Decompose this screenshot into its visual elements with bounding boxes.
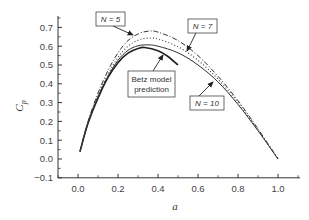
cp-vs-a-chart: −0.10.00.10.20.30.40.50.60.70.00.20.40.6… [0,0,309,220]
y-tick-label: 0.1 [40,135,53,146]
annotation-n-5: N = 5 [96,12,133,35]
annotation-label: N = 10 [195,99,219,108]
y-tick-label: 0.7 [40,22,53,33]
arrow-icon [199,82,213,96]
annotation-label-line2: prediction [134,85,169,94]
x-tick-label: 0.0 [71,183,84,194]
x-tick-label: 1.0 [271,183,284,194]
arrow-icon [153,55,163,71]
annotation-n-10: N = 10 [190,82,224,110]
x-tick-label: 0.4 [151,183,164,194]
x-tick-label: 0.2 [111,183,124,194]
annotation-n-7: N = 7 [187,19,217,51]
annotation-label: Betz model [131,75,171,84]
y-tick-label: 0.5 [40,59,53,70]
arrow-icon [187,33,196,51]
annotation-label: N = 5 [101,15,121,24]
series-group [80,31,278,159]
annotations: N = 5N = 7Betz modelpredictionN = 10 [96,12,224,110]
annotation-label: N = 7 [193,22,213,31]
y-axis-title: Cp [13,100,28,111]
series-n-10-line [80,45,278,159]
y-tick-label: 0.4 [40,78,53,89]
y-tick-label: 0.3 [40,97,53,108]
annotation-betz-model-prediction: Betz modelprediction [128,55,175,97]
x-axis-title: a [172,200,178,212]
x-tick-label: 0.6 [191,183,204,194]
series-betz-model-prediction-line [80,47,178,151]
series-n-5-line [80,31,278,159]
y-tick-label: 0.6 [40,41,53,52]
y-tick-label: −0.1 [34,172,53,183]
series-n-7-line [80,38,278,159]
x-tick-label: 0.8 [231,183,244,194]
y-tick-label: 0.2 [40,116,53,127]
arrow-icon [113,26,133,35]
y-tick-label: 0.0 [40,153,53,164]
